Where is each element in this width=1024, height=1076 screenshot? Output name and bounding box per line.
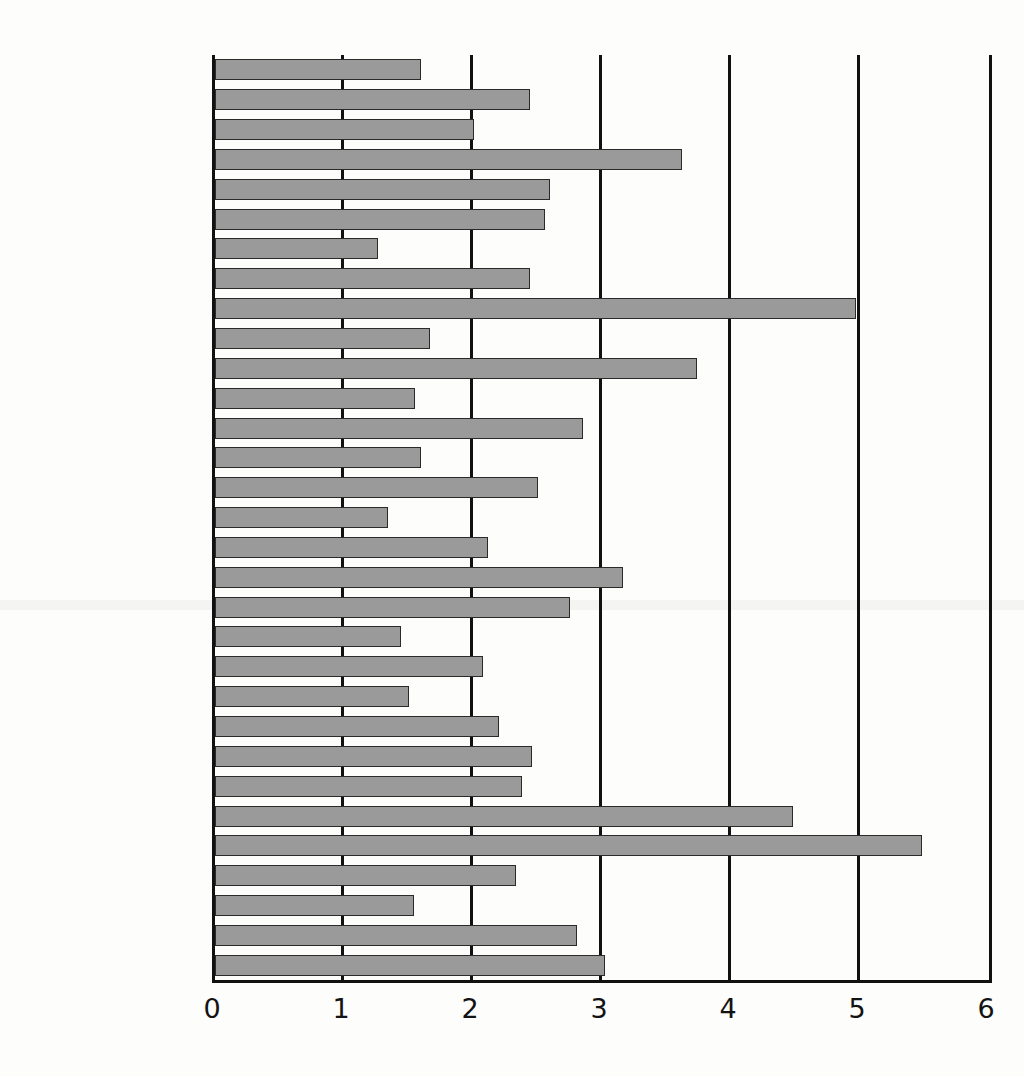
bar xyxy=(215,865,516,886)
bar xyxy=(215,597,570,618)
bar xyxy=(215,298,856,319)
bar xyxy=(215,59,421,80)
bar xyxy=(215,238,378,259)
bar xyxy=(215,776,522,797)
x-tick-label: 6 xyxy=(977,994,994,1024)
bar xyxy=(215,418,583,439)
bar-row: Malaysia xyxy=(215,503,989,533)
bar-row: Britain xyxy=(215,145,989,175)
bar xyxy=(215,746,532,767)
x-tick-label: 2 xyxy=(461,994,478,1024)
bar xyxy=(215,89,530,110)
bar xyxy=(215,806,793,827)
bar xyxy=(215,955,605,976)
bar xyxy=(215,388,415,409)
bar-row: Japan xyxy=(215,473,989,503)
bar xyxy=(215,209,545,230)
bar xyxy=(215,537,488,558)
plot-area: ArgentinaAustraliaBrazilBritainCanadaChi… xyxy=(212,55,992,983)
bar-row: Argentina xyxy=(215,55,989,85)
bar xyxy=(215,119,474,140)
bar-row: Hungary xyxy=(215,413,989,443)
x-tick-label: 0 xyxy=(203,994,220,1024)
bar xyxy=(215,179,550,200)
bar-row: Czech Republic xyxy=(215,264,989,294)
chart-page: ArgentinaAustraliaBrazilBritainCanadaChi… xyxy=(0,0,1024,1076)
bar-row: South Africa xyxy=(215,741,989,771)
bar-row: United States xyxy=(215,950,989,980)
x-tick-label: 4 xyxy=(719,994,736,1024)
bar-row: Poland xyxy=(215,652,989,682)
bar xyxy=(215,626,401,647)
bar-row: Russia xyxy=(215,682,989,712)
bar xyxy=(215,149,682,170)
bar xyxy=(215,716,499,737)
bar xyxy=(215,925,577,946)
bar xyxy=(215,358,697,379)
bar-row: New Zealand xyxy=(215,562,989,592)
bar xyxy=(215,507,388,528)
bar-row: Singapore xyxy=(215,712,989,742)
x-tick-label: 3 xyxy=(590,994,607,1024)
bar xyxy=(215,567,623,588)
bar-row: Thailand xyxy=(215,891,989,921)
x-tick-label: 5 xyxy=(848,994,865,1024)
bar xyxy=(215,268,530,289)
bar xyxy=(215,447,421,468)
bar-row: Canada xyxy=(215,174,989,204)
bar-row: Brazil xyxy=(215,115,989,145)
bar-row: Hong Kong xyxy=(215,383,989,413)
bar xyxy=(215,686,409,707)
bar-row: Sweden xyxy=(215,801,989,831)
bar-row: Euro area xyxy=(215,353,989,383)
bar-row: Philippines xyxy=(215,622,989,652)
bar-row: Indonesia xyxy=(215,443,989,473)
bar xyxy=(215,656,483,677)
x-axis: 0123456 xyxy=(212,994,986,1034)
bar-rows: ArgentinaAustraliaBrazilBritainCanadaChi… xyxy=(215,55,989,980)
bar xyxy=(215,328,430,349)
x-tick-label: 1 xyxy=(332,994,349,1024)
bar-row: South Korea xyxy=(215,771,989,801)
bar-row: Australia xyxy=(215,85,989,115)
bar-row: Switzerland xyxy=(215,831,989,861)
bar-row: Mexico xyxy=(215,533,989,563)
bar xyxy=(215,477,538,498)
bar xyxy=(215,835,922,856)
bar-row: Egypt xyxy=(215,324,989,354)
bar-row: Peru xyxy=(215,592,989,622)
bar-row: China xyxy=(215,234,989,264)
bar-row: Turkey xyxy=(215,920,989,950)
bar xyxy=(215,895,414,916)
bar-row: Taiwan xyxy=(215,861,989,891)
bar-row: Denmark xyxy=(215,294,989,324)
bar-chart: ArgentinaAustraliaBrazilBritainCanadaChi… xyxy=(0,0,1024,1076)
bar-row: Chile xyxy=(215,204,989,234)
